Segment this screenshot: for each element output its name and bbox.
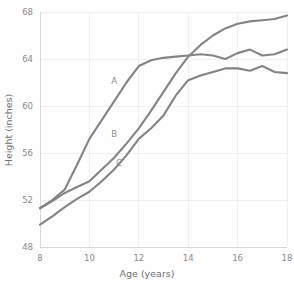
x-tick-label: 10	[84, 253, 95, 263]
y-tick-label: 60	[22, 101, 33, 111]
y-axis-title: Height (inches)	[3, 94, 14, 167]
chart-page: 485256606468 81012141618 ABC Age (years)…	[0, 0, 294, 283]
x-tick-label: 14	[183, 253, 194, 263]
y-tick-label: 68	[22, 7, 33, 17]
series-label-b: B	[111, 129, 117, 139]
x-axis-title: Age (years)	[120, 268, 175, 279]
y-tick-label: 56	[22, 148, 33, 158]
x-tick-label: 8	[37, 253, 42, 263]
series-label-c: C	[116, 158, 122, 168]
y-tick-label: 48	[22, 242, 33, 252]
y-tick-label: 64	[22, 54, 33, 64]
x-tick-label: 16	[232, 253, 243, 263]
x-tick-label: 12	[133, 253, 144, 263]
x-tick-label: 18	[282, 253, 293, 263]
y-tick-label: 52	[22, 195, 33, 205]
series-label-a: A	[111, 76, 117, 86]
line-chart: 485256606468 81012141618 ABC Age (years)…	[0, 0, 294, 283]
chart-background	[0, 0, 294, 283]
